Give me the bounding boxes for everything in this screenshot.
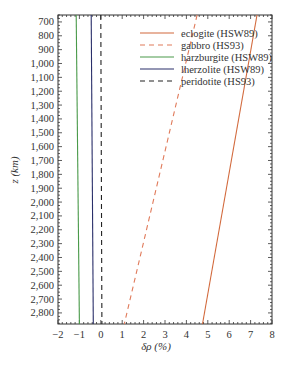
y-tick-label: 2,400: [30, 252, 54, 263]
x-tick-label: 8: [269, 329, 274, 340]
y-tick-label: 1,700: [30, 155, 54, 166]
legend-label: eclogite (HSW89): [181, 28, 258, 40]
x-tick-label: 4: [184, 329, 190, 340]
x-tick-label: 2: [141, 329, 146, 340]
legend: eclogite (HSW89)gabbro (HS93)harzburgite…: [140, 28, 273, 88]
y-tick-label: 700: [38, 16, 54, 27]
y-tick-label: 2,700: [30, 294, 54, 305]
series-line: [76, 15, 79, 324]
x-tick-label: 5: [205, 329, 210, 340]
y-tick-label: 900: [38, 44, 54, 55]
x-tick-label: 7: [248, 329, 253, 340]
x-tick-label: −2: [52, 329, 63, 340]
y-tick-label: 2,500: [30, 266, 54, 277]
y-tick-label: 1,800: [30, 169, 54, 180]
y-tick-label: 1,300: [30, 100, 54, 111]
legend-label: lherzolite (HSW89): [181, 64, 265, 76]
series-line: [101, 15, 102, 324]
y-tick-label: 2,200: [30, 224, 54, 235]
legend-label: harzburgite (HSW89): [181, 52, 273, 64]
y-tick-label: 1,600: [30, 141, 54, 152]
y-tick-label: 2,800: [30, 307, 54, 318]
y-tick-label: 1,500: [30, 127, 54, 138]
x-tick-label: 3: [162, 329, 167, 340]
y-tick-label: 1,900: [30, 183, 54, 194]
y-tick-label: 2,100: [30, 210, 54, 221]
x-tick-label: −1: [74, 329, 85, 340]
legend-label: peridotite (HS93): [181, 76, 255, 88]
chart: −2−1012345678 7008009001,0001,1001,2001,…: [0, 0, 289, 366]
y-tick-label: 2,600: [30, 280, 54, 291]
x-tick-label: 1: [120, 329, 125, 340]
x-axis-label: δρ (%): [141, 340, 171, 353]
y-tick-label: 1,200: [30, 86, 54, 97]
legend-label: gabbro (HS93): [181, 40, 244, 52]
y-tick-label: 1,100: [30, 72, 54, 83]
y-tick-label: 2,300: [30, 238, 54, 249]
y-axis-label: z (km): [8, 156, 21, 185]
y-tick-label: 2,000: [30, 197, 54, 208]
x-tick-label: 6: [227, 329, 232, 340]
y-tick-label: 800: [38, 30, 54, 41]
y-tick-label: 1,400: [30, 113, 54, 124]
y-tick-label: 1,000: [30, 58, 54, 69]
series-line: [91, 15, 93, 324]
x-tick-label: 0: [98, 329, 103, 340]
